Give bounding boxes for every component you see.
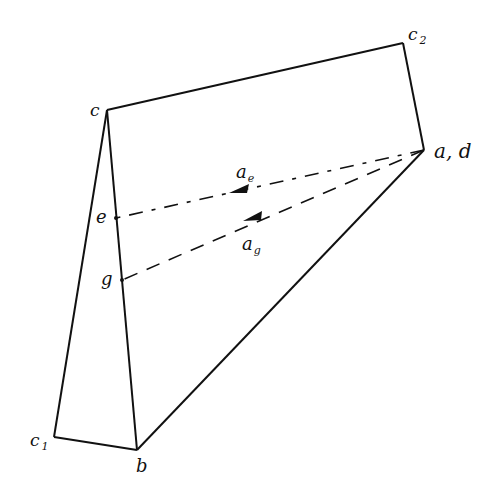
edge-c-c2 bbox=[107, 43, 403, 110]
label-a-d: a, d bbox=[434, 139, 471, 163]
edge-ad-b bbox=[137, 150, 424, 450]
dashed-line-a-g bbox=[122, 150, 424, 280]
acceleration-polygon-diagram: c c2 a, d e g c1 b ae ag bbox=[0, 0, 500, 490]
labels: c c2 a, d e g c1 b ae ag bbox=[30, 24, 471, 476]
label-c: c bbox=[90, 100, 100, 120]
vector-a-e bbox=[116, 150, 424, 218]
dashed-line-a-e bbox=[116, 150, 424, 218]
edge-b-c1 bbox=[54, 437, 137, 450]
label-c2: c2 bbox=[408, 24, 427, 47]
label-a-e: ae bbox=[236, 161, 255, 185]
point-g-marker bbox=[120, 278, 124, 282]
label-b: b bbox=[136, 455, 148, 476]
vector-a-g bbox=[122, 150, 424, 280]
label-c1: c1 bbox=[30, 430, 49, 453]
point-e-marker bbox=[114, 216, 118, 220]
arrowhead-a-g-icon bbox=[243, 211, 262, 221]
edge-c1-c bbox=[54, 110, 107, 437]
solid-edges bbox=[54, 43, 424, 450]
label-e: e bbox=[96, 206, 107, 227]
arrowhead-a-e-icon bbox=[229, 184, 249, 193]
edge-c2-ad bbox=[403, 43, 424, 150]
label-a-g: ag bbox=[242, 233, 261, 257]
label-g: g bbox=[101, 268, 113, 289]
